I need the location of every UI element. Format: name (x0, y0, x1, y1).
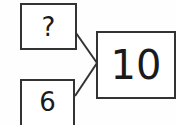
connector-bottom (75, 63, 97, 96)
part-label-unknown: ? (42, 12, 56, 42)
whole-label: 10 (111, 42, 162, 88)
part-box-known: 6 (20, 79, 75, 125)
whole-box: 10 (96, 31, 176, 99)
number-bond-diagram: ? 6 10 (0, 0, 176, 125)
connector-top (76, 33, 97, 63)
part-box-unknown: ? (20, 3, 77, 50)
part-label-known: 6 (39, 87, 56, 117)
